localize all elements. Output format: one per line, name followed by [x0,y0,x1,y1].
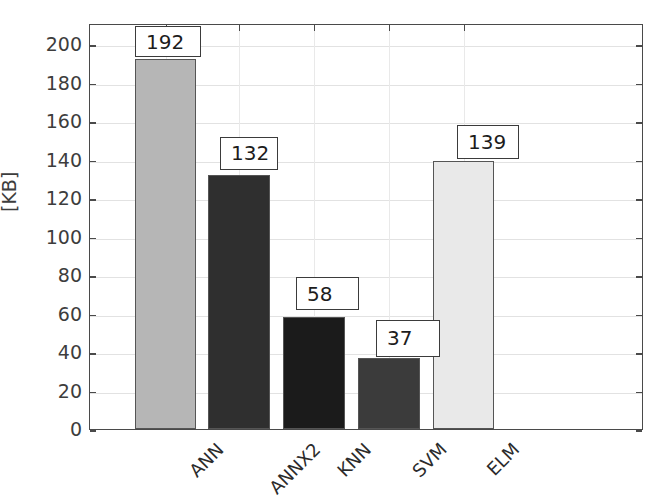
bar-chart-figure: [KB] 020406080100120140160180200 1921325… [0,0,661,501]
bar-svm[interactable] [358,358,420,429]
y-axis-tick-right [636,430,642,431]
y-axis-tick [90,276,96,277]
y-axis-tick-label: 80 [30,266,82,285]
y-axis-tick-right [636,353,642,354]
y-axis-tick [90,315,96,316]
x-axis-label-annx2: ANNX2 [266,440,323,497]
x-axis-label-elm: ELM [483,440,522,479]
x-axis-tick-top [239,25,240,31]
y-axis-tick-right [636,122,642,123]
y-axis-tick-label: 160 [30,112,82,131]
bar-ann[interactable] [135,59,196,429]
y-axis-tick-right [636,315,642,316]
bar-knn[interactable] [283,317,345,429]
y-axis-tick-right [636,45,642,46]
y-axis-tick [90,430,96,431]
x-axis-tick-top [464,25,465,31]
y-axis-tick [90,238,96,239]
y-axis-tick-label: 40 [30,343,82,362]
value-label-ann: 192 [135,26,201,57]
y-axis-tick [90,199,96,200]
y-axis-tick-right [636,392,642,393]
x-axis-tick-top [314,25,315,31]
value-label-elm: 139 [457,125,519,159]
y-axis-tick-label: 140 [30,151,82,170]
x-axis-label-ann: ANN [186,440,226,480]
x-axis-tick-top [389,25,390,31]
plot-area [89,24,643,430]
y-axis-tick-right [636,84,642,85]
value-label-knn: 58 [296,277,359,310]
y-axis-tick [90,45,96,46]
y-axis-tick-label: 180 [30,74,82,93]
y-axis-tick [90,84,96,85]
value-label-annx2: 132 [220,137,278,170]
y-axis-tick-right [636,276,642,277]
y-axis-tick-right [636,161,642,162]
y-axis-tick-right [636,238,642,239]
y-axis-tick [90,161,96,162]
y-axis-tick-right [636,199,642,200]
bar-annx2[interactable] [208,175,270,429]
y-axis-tick [90,353,96,354]
y-axis-tick-label: 20 [30,382,82,401]
y-axis-tick [90,392,96,393]
value-label-svm: 37 [376,320,440,357]
y-axis-tick-label: 60 [30,305,82,324]
y-axis-tick [90,122,96,123]
y-axis-tick-label: 0 [30,420,82,439]
y-axis-tick-label: 100 [30,228,82,247]
y-axis-tick-label: 200 [30,35,82,54]
bar-elm[interactable] [433,161,494,429]
x-axis-label-knn: KNN [334,440,374,480]
x-axis-label-svm: SVM [410,440,451,481]
y-axis-label: [KB] [0,172,20,212]
y-axis-tick-label: 120 [30,189,82,208]
